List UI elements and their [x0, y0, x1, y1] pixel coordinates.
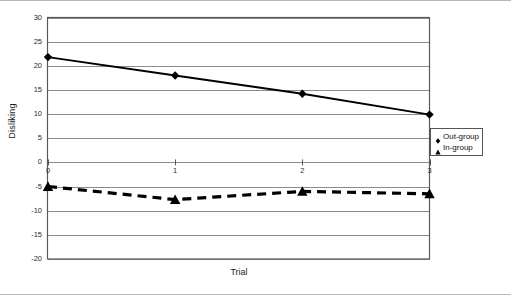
- gridlines: [48, 19, 430, 260]
- y-tick-label: 20: [16, 61, 42, 70]
- y-axis-title: Disliking: [7, 91, 17, 151]
- x-tick-label: 0: [38, 166, 58, 175]
- y-tick-label: 5: [16, 133, 42, 142]
- x-tick-label: 3: [420, 166, 440, 175]
- legend-item-out-group[interactable]: Out-group: [433, 131, 479, 142]
- y-tick-label: 25: [16, 37, 42, 46]
- data-point-diamond: [44, 53, 52, 61]
- chart-screenshot: 302520151050-5-10-15-20 0123 Disliking T…: [0, 0, 511, 302]
- y-tick-label: -15: [16, 230, 42, 239]
- y-tick-label: 15: [16, 85, 42, 94]
- series-line-in-group: [48, 187, 430, 200]
- y-tick-label: 0: [16, 157, 42, 166]
- x-tick-label: 2: [292, 166, 312, 175]
- legend-item-in-group[interactable]: In-group: [433, 142, 479, 153]
- y-tick-label: 30: [16, 13, 42, 22]
- x-axis-title: Trial: [48, 267, 430, 277]
- triangle-icon: [433, 143, 443, 153]
- legend-label-in-group: In-group: [443, 142, 473, 153]
- chart-legend[interactable]: Out-group In-group: [430, 128, 483, 156]
- data-point-diamond: [425, 110, 433, 118]
- y-tick-label: 10: [16, 109, 42, 118]
- y-tick-label: -20: [16, 254, 42, 263]
- x-tick-label: 1: [165, 166, 185, 175]
- diamond-icon: [433, 132, 443, 142]
- y-tick-label: -5: [16, 182, 42, 191]
- data-series-layer: [43, 53, 435, 204]
- y-tick-label: -10: [16, 206, 42, 215]
- line-chart: 302520151050-5-10-15-20 0123 Disliking T…: [0, 0, 511, 302]
- data-point-diamond: [171, 71, 179, 79]
- legend-label-out-group: Out-group: [443, 131, 479, 142]
- series-line-out-group: [48, 57, 430, 115]
